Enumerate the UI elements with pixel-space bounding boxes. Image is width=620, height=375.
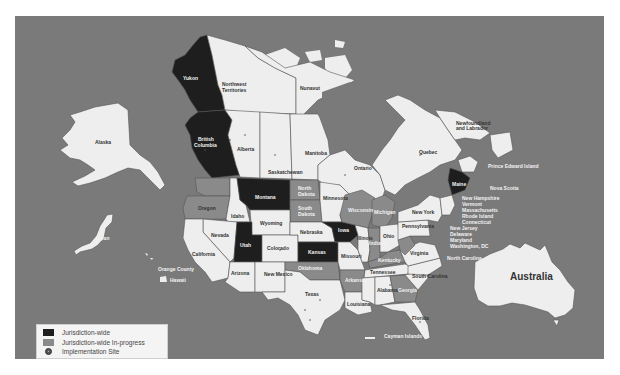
label-alberta: Alberta [237,146,254,152]
label-north-carolina: North Carolina [447,255,482,261]
label-florida: Florida [412,315,429,321]
legend-swatch-gray [43,339,54,346]
label-pei: Prince Edward Island [488,163,539,169]
label-minnesota: Minnesota [323,195,348,201]
label-oregon: Oregon [198,205,216,211]
label-orange-county: Orange County [158,266,194,272]
label-wisconsin: Wisconsin [348,207,373,213]
label-nebraska: Nebraska [300,229,323,235]
label-idaho: Idaho [231,213,244,219]
label-saskatchewan: Saskatchewan [268,169,302,175]
label-michigan: Michigan [374,209,396,215]
label-nunavut: Nunavut [300,85,320,91]
label-louisiana: Louisiana [347,301,371,307]
region-cayman [365,337,375,339]
legend-swatch-dark [43,329,54,336]
label-quebec: Quebec [419,149,438,155]
label-hawaii: Hawaii [170,277,186,283]
region-alaska [60,103,165,190]
label-nevada: Nevada [211,232,229,238]
map-legend: Jurisdiction-wide Jurisdiction-wide In-p… [36,324,168,359]
label-alaska: Alaska [95,139,111,145]
label-new-mexico: New Mexico [264,271,293,277]
legend-label: Implementation Site [62,348,119,355]
label-california: California [192,251,215,257]
label-iowa: Iowa [338,227,349,233]
label-colorado: Colorado [267,245,289,251]
label-missouri: Missouri [341,253,362,259]
label-virginia: Virginia [410,250,428,256]
label-georgia: Georgia [398,287,417,293]
label-tennessee: Tennessee [370,269,396,275]
label-oklahoma: Oklahoma [298,265,322,271]
label-south-carolina: South Carolina [412,273,448,279]
label-new-york: New York [412,209,435,215]
label-north-dakota-2: Dakota [298,191,315,197]
label-ohio: Ohio [383,233,394,239]
label-pennsylvania: Pennsylvania [402,223,434,229]
region-new-brunswick [458,156,478,172]
label-cayman: Cayman Islands [384,333,422,339]
label-newfoundland-2: and Labrador [456,125,488,131]
legend-item-implementation-site: Implementation Site [43,347,161,357]
implementation-site-icon [45,348,52,355]
label-manitoba: Manitoba [305,150,327,156]
region-washington [195,178,230,196]
label-kansas: Kansas [308,249,326,255]
legend-label: Jurisdiction-wide In-progress [62,339,145,346]
label-yukon: Yukon [183,75,198,81]
region-australia [474,243,575,326]
legend-item-jurisdiction-wide: Jurisdiction-wide [43,328,161,338]
label-arkansas: Arkansas [345,277,368,283]
label-texas: Texas [305,291,319,297]
label-washington-dc: Washington, DC [450,243,489,249]
label-australia: Australia [510,271,553,282]
label-indiana: Indiana [369,240,387,246]
label-bc-2: Columbia [194,142,217,148]
label-south-dakota-2: Dakota [298,211,315,217]
label-alabama: Alabama [377,287,398,293]
legend-item-in-progress: Jurisdiction-wide In-progress [43,338,161,348]
label-ontario: Ontario [354,165,372,171]
map-frame: Yukon Northwest Territories Nunavut Alas… [15,16,604,359]
legend-label: Jurisdiction-wide [62,329,110,336]
region-arizona [225,262,255,292]
north-america-map: Yukon Northwest Territories Nunavut Alas… [15,16,604,359]
label-maine: Maine [452,181,466,187]
label-japan: Japan [95,235,109,241]
label-nova-scotia: Nova Scotia [490,185,519,191]
region-new-england [440,195,455,215]
label-montana: Montana [255,194,276,200]
label-wyoming: Wyoming [260,220,282,226]
label-utah: Utah [240,242,251,248]
label-arizona: Arizona [231,270,250,276]
region-new-mexico [255,262,285,292]
label-nwt-2: Territories [222,87,247,93]
label-kentucky: Kentucky [378,257,401,263]
